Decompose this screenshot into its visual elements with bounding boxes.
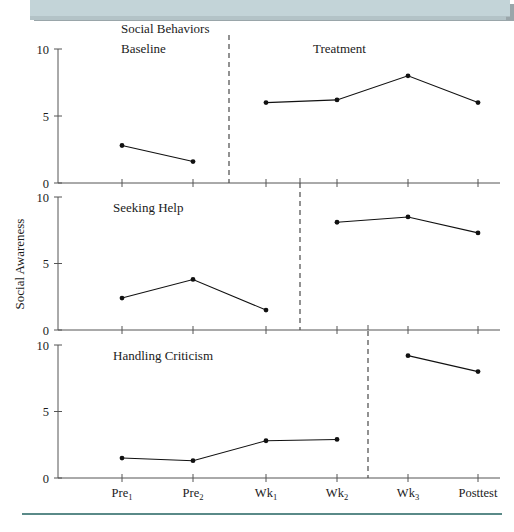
bottom-rule (22, 513, 502, 515)
y-axis-tick-label: 10 (37, 191, 50, 205)
data-line-treatment (337, 217, 478, 233)
data-point (476, 100, 481, 105)
data-point (406, 215, 411, 220)
data-point (191, 159, 196, 164)
y-axis-tick-label: 5 (43, 405, 49, 419)
data-line-baseline (122, 145, 193, 161)
data-point (120, 296, 125, 301)
data-point (406, 73, 411, 78)
data-line-treatment (408, 356, 478, 372)
data-point (476, 231, 481, 236)
data-point (264, 438, 269, 443)
x-axis-tick-label: Wk3 (397, 486, 419, 502)
data-point (191, 458, 196, 463)
figure-root: 0510Social Behaviors0510Seeking Help0510… (0, 0, 514, 532)
y-axis-tick-label: 10 (37, 43, 50, 57)
x-axis-tick-label: Pre1 (112, 486, 133, 502)
y-axis-tick-label: 0 (43, 472, 49, 486)
data-point (264, 100, 269, 105)
panel-axes (58, 49, 500, 183)
y-axis-label: Social Awareness (12, 219, 27, 310)
panel-title: Seeking Help (113, 200, 183, 215)
phase-label-treatment: Treatment (313, 41, 366, 56)
data-point (476, 369, 481, 374)
data-line-baseline (122, 439, 337, 460)
y-axis-tick-label: 0 (43, 177, 49, 191)
data-line-treatment (266, 76, 478, 103)
y-axis-tick-label: 5 (43, 257, 49, 271)
multiple-baseline-chart: 0510Social Behaviors0510Seeking Help0510… (0, 0, 514, 532)
phase-label-baseline: Baseline (121, 41, 166, 56)
y-axis-tick-label: 5 (43, 110, 49, 124)
data-point (335, 220, 340, 225)
y-axis-tick-label: 10 (37, 339, 50, 353)
panel-title: Social Behaviors (121, 21, 209, 36)
data-line-baseline (122, 279, 266, 310)
data-point (120, 143, 125, 148)
panel-axes (58, 197, 500, 330)
data-point (191, 277, 196, 282)
data-point (406, 353, 411, 358)
data-point (335, 98, 340, 103)
x-axis-tick-label: Wk1 (255, 486, 277, 502)
data-point (120, 456, 125, 461)
panel-title: Handling Criticism (113, 348, 213, 363)
x-axis-tick-label: Wk2 (326, 486, 348, 502)
y-axis-tick-label: 0 (43, 324, 49, 338)
data-point (335, 437, 340, 442)
x-axis-tick-label: Pre2 (183, 486, 204, 502)
x-axis-tick-label: Posttest (459, 486, 498, 500)
data-point (264, 308, 269, 313)
